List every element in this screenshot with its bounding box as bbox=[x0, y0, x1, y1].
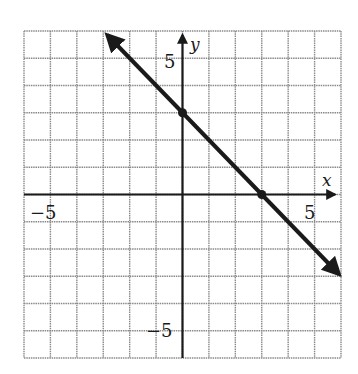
data-point bbox=[178, 108, 187, 117]
x-axis-label: x bbox=[322, 170, 332, 190]
plotted-line bbox=[107, 35, 339, 274]
data-point bbox=[257, 190, 266, 199]
y-tick-label-neg5: −5 bbox=[146, 320, 173, 341]
x-tick-label-5: 5 bbox=[304, 202, 315, 223]
x-tick-label-neg5: −5 bbox=[30, 202, 57, 223]
y-axis-label: y bbox=[189, 34, 200, 54]
coordinate-plane: x y −5 5 5 −5 bbox=[0, 0, 358, 374]
y-tick-label-5: 5 bbox=[164, 51, 175, 72]
data-line bbox=[107, 35, 339, 274]
